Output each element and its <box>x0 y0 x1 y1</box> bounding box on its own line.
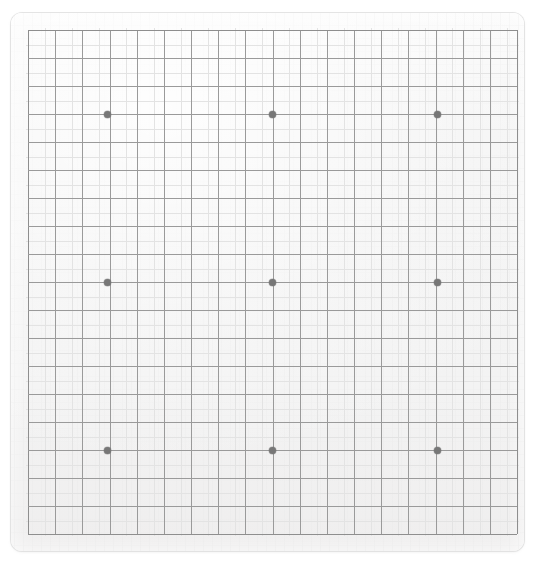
grid-line-horizontal <box>28 58 517 59</box>
star-point-k4 <box>269 447 276 454</box>
board-grid[interactable] <box>28 30 517 534</box>
grid-line-horizontal <box>28 310 517 311</box>
star-point-d4 <box>104 447 111 454</box>
grid-line-horizontal <box>28 478 517 479</box>
grid-line-horizontal <box>28 534 517 535</box>
star-point-d16 <box>104 111 111 118</box>
grid-line-horizontal <box>28 86 517 87</box>
star-point-k16 <box>269 111 276 118</box>
star-point-q16 <box>434 111 441 118</box>
grid-line-horizontal <box>28 422 517 423</box>
grid-line-horizontal <box>28 254 517 255</box>
grid-line-horizontal <box>28 30 517 31</box>
grid-line-vertical <box>517 30 518 534</box>
grid-line-horizontal <box>28 198 517 199</box>
grid-line-horizontal <box>28 226 517 227</box>
go-board-canvas <box>0 0 541 561</box>
star-point-q10 <box>434 279 441 286</box>
grid-line-horizontal <box>28 394 517 395</box>
grid-line-horizontal <box>28 142 517 143</box>
grid-line-horizontal <box>28 366 517 367</box>
grid-line-horizontal <box>28 506 517 507</box>
star-point-q4 <box>434 447 441 454</box>
grid-line-horizontal <box>28 338 517 339</box>
star-point-k10 <box>269 279 276 286</box>
grid-line-horizontal <box>28 170 517 171</box>
star-point-d10 <box>104 279 111 286</box>
